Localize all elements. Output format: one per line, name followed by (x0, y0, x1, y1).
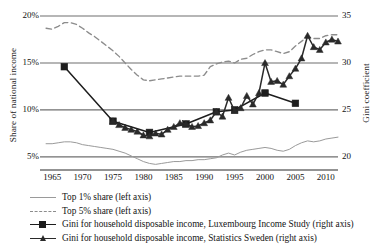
x-tick-label: 2010 (306, 172, 346, 182)
legend-label: Gini for household disposable income, Lu… (62, 218, 354, 231)
x-axis-ticks: 1965197019751980198519901995200020052010 (0, 0, 380, 190)
square-marker-line-key (28, 218, 58, 231)
legend-item: Gini for household disposable income, Lu… (28, 218, 380, 231)
legend-square-marker (39, 221, 46, 228)
legend-label: Top 5% share (left axis) (62, 205, 151, 218)
legend-line-swatch (30, 197, 56, 198)
triangle-marker-line-key (28, 232, 58, 245)
legend-label: Gini for household disposable income, St… (62, 232, 317, 245)
chart-legend: Top 1% share (left axis)Top 5% share (le… (28, 191, 380, 245)
legend-triangle-marker (40, 235, 46, 241)
legend-item: Gini for household disposable income, St… (28, 232, 380, 245)
chart-figure: Share of national income Gini coefficien… (0, 0, 380, 245)
legend-item: Top 1% share (left axis) (28, 191, 380, 204)
legend-line-swatch (30, 211, 56, 212)
legend-item: Top 5% share (left axis) (28, 205, 380, 218)
thin-line-key (28, 191, 58, 204)
legend-label: Top 1% share (left axis) (62, 191, 151, 204)
dashed-line-key (28, 205, 58, 218)
